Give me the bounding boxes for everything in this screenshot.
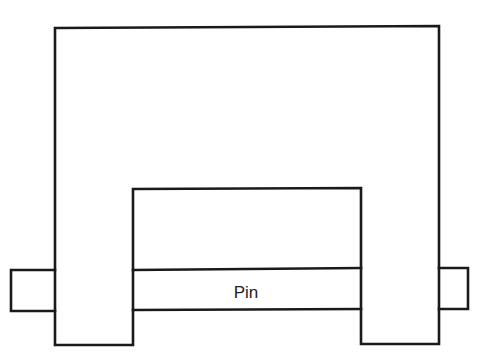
right-pin-end xyxy=(439,268,468,309)
clevis-diagram: Pin xyxy=(0,0,483,356)
pin-top-edge xyxy=(133,268,361,270)
pin-label: Pin xyxy=(234,283,259,302)
pin-bottom-edge xyxy=(133,309,361,310)
left-pin-end xyxy=(11,270,55,311)
